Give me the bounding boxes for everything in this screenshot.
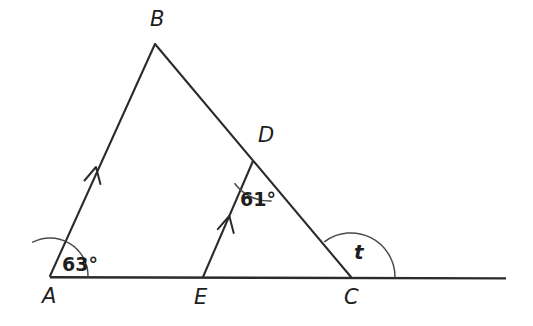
geometry-canvas: A B C D E 63° 61° t: [0, 0, 533, 326]
label-angle-D: 61°: [240, 188, 276, 210]
label-point-B: B: [150, 7, 164, 31]
label-angle-A: 63°: [62, 253, 98, 275]
label-point-D: D: [258, 123, 274, 147]
label-point-C: C: [344, 285, 359, 309]
label-point-E: E: [194, 285, 208, 309]
geometry-figure: A B C D E 63° 61° t: [0, 0, 533, 326]
label-angle-t: t: [354, 240, 365, 264]
baseline-ray: [50, 277, 506, 278]
label-point-A: A: [40, 284, 56, 308]
